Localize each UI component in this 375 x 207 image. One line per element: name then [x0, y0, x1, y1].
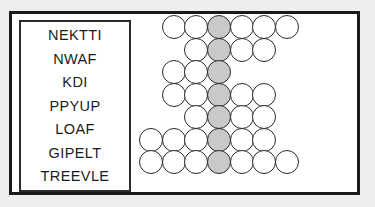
- grid-cell[interactable]: [162, 60, 186, 84]
- grid-cell-shaded[interactable]: [207, 150, 231, 174]
- grid-cell[interactable]: [184, 83, 208, 107]
- wordlist-item: NWAF: [53, 52, 97, 67]
- grid-cell[interactable]: [252, 150, 276, 174]
- grid-cell-shaded[interactable]: [207, 128, 231, 152]
- wordlist-item: KDI: [62, 75, 87, 90]
- circle-grid: [137, 15, 357, 192]
- grid-row: [139, 128, 275, 152]
- grid-cell[interactable]: [275, 15, 299, 39]
- grid-row: [184, 38, 275, 62]
- wordlist-item: GIPELT: [49, 146, 102, 161]
- grid-cell[interactable]: [184, 128, 208, 152]
- grid-cell[interactable]: [162, 83, 186, 107]
- grid-cell[interactable]: [252, 83, 276, 107]
- grid-cell[interactable]: [230, 105, 254, 129]
- puzzle-frame: NEKTTI NWAF KDI PPYUP LOAF GIPELT TREEVL…: [9, 11, 360, 195]
- grid-cell[interactable]: [184, 105, 208, 129]
- wordlist-item: TREEVLE: [41, 169, 110, 184]
- grid-cell[interactable]: [162, 150, 186, 174]
- grid-cell-shaded[interactable]: [207, 60, 231, 84]
- grid-cell[interactable]: [162, 15, 186, 39]
- grid-cell[interactable]: [139, 128, 163, 152]
- grid-cell-shaded[interactable]: [207, 105, 231, 129]
- grid-row: [139, 150, 298, 174]
- wordlist-item: LOAF: [55, 122, 94, 137]
- grid-row: [184, 105, 275, 129]
- grid-cell[interactable]: [230, 15, 254, 39]
- grid-cell[interactable]: [252, 105, 276, 129]
- grid-cell[interactable]: [184, 38, 208, 62]
- grid-cell-shaded[interactable]: [207, 83, 231, 107]
- grid-cell[interactable]: [230, 128, 254, 152]
- grid-row: [162, 15, 298, 39]
- grid-cell[interactable]: [230, 38, 254, 62]
- grid-cell[interactable]: [230, 150, 254, 174]
- grid-cell[interactable]: [139, 150, 163, 174]
- grid-cell[interactable]: [252, 38, 276, 62]
- grid-cell-shaded[interactable]: [207, 38, 231, 62]
- wordlist-box: NEKTTI NWAF KDI PPYUP LOAF GIPELT TREEVL…: [19, 20, 131, 192]
- grid-cell[interactable]: [184, 15, 208, 39]
- wordlist-item: NEKTTI: [48, 28, 102, 43]
- grid-row: [162, 60, 230, 84]
- grid-cell[interactable]: [184, 60, 208, 84]
- wordlist-item: PPYUP: [49, 99, 100, 114]
- grid-cell-shaded[interactable]: [207, 15, 231, 39]
- grid-cell[interactable]: [162, 128, 186, 152]
- grid-row: [162, 83, 276, 107]
- grid-cell[interactable]: [230, 83, 254, 107]
- grid-cell[interactable]: [275, 150, 299, 174]
- grid-cell[interactable]: [184, 150, 208, 174]
- puzzle-frame-inner: NEKTTI NWAF KDI PPYUP LOAF GIPELT TREEVL…: [12, 14, 357, 192]
- grid-cell[interactable]: [252, 128, 276, 152]
- grid-cell[interactable]: [252, 15, 276, 39]
